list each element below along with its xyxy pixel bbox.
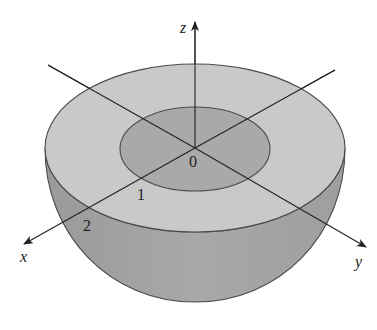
tick-label-2: 2 bbox=[83, 217, 91, 234]
hemispherical-shell-figure: z x y 0 1 2 bbox=[0, 0, 377, 330]
z-axis-label: z bbox=[179, 19, 187, 36]
x-axis-label: x bbox=[19, 248, 27, 265]
y-axis-label: y bbox=[353, 253, 363, 271]
origin-label: 0 bbox=[189, 153, 197, 170]
tick-label-1: 1 bbox=[137, 186, 145, 203]
